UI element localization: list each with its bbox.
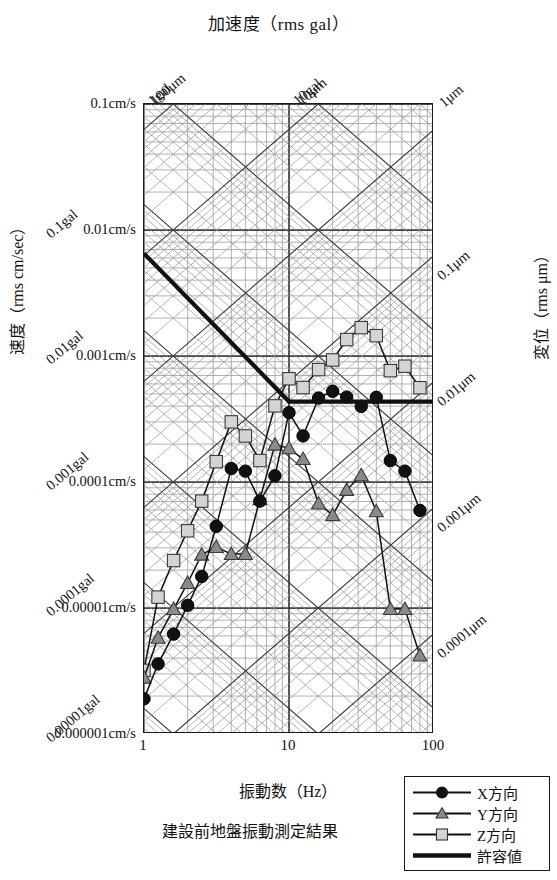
legend-label: 許容値 bbox=[473, 845, 522, 866]
figure-caption: 建設前地盤振動測定結果 bbox=[100, 818, 400, 842]
legend-item[interactable]: Y方向 bbox=[411, 803, 543, 824]
legend-item[interactable]: Z方向 bbox=[411, 824, 543, 845]
displacement-right-label: 0.001μm bbox=[434, 491, 483, 535]
legend-item[interactable]: X方向 bbox=[411, 782, 543, 803]
x-tick-label: 1 bbox=[139, 737, 147, 754]
plot-area bbox=[143, 103, 433, 733]
x-tick-label: 10 bbox=[281, 737, 296, 754]
displacement-right-label: 0.0001μm bbox=[434, 612, 488, 661]
legend-label: X方向 bbox=[473, 782, 518, 803]
legend-marker-thick-line-icon bbox=[411, 845, 473, 866]
y-axis-title-displacement: 変位（rms μm） bbox=[528, 247, 552, 360]
x-axis-title: 振動数（Hz） bbox=[143, 778, 433, 802]
displacement-right-label: 0.1μm bbox=[434, 248, 472, 283]
legend-marker-circle-icon bbox=[411, 782, 473, 803]
legend: X方向 Y方向 Z方向 許容値 bbox=[404, 776, 550, 871]
y-tick-label-velocity: 0.1cm/s bbox=[0, 96, 136, 111]
legend-label: Z方向 bbox=[473, 824, 516, 845]
data-series-layer bbox=[144, 104, 433, 733]
chart-top-title: 加速度（rms gal） bbox=[0, 10, 557, 35]
x-tick-label: 100 bbox=[422, 737, 445, 754]
legend-item[interactable]: 許容値 bbox=[411, 845, 543, 866]
y-axis-title-velocity: 速度（rms cm/sec） bbox=[4, 219, 28, 355]
legend-marker-triangle-icon bbox=[411, 803, 473, 824]
legend-label: Y方向 bbox=[473, 803, 518, 824]
displacement-right-label: 0.01μm bbox=[434, 370, 477, 410]
displacement-top-label: 1μm bbox=[436, 82, 465, 110]
vibration-nomograph-figure: 加速度（rms gal） 0.1cm/s 0.01cm/s 0.001cm/s … bbox=[0, 0, 557, 880]
legend-marker-square-icon bbox=[411, 824, 473, 845]
